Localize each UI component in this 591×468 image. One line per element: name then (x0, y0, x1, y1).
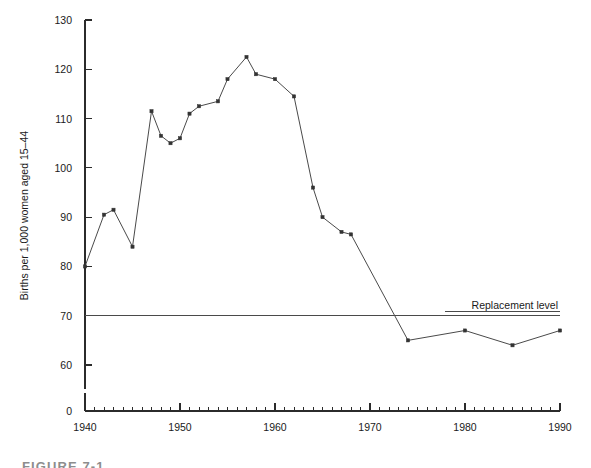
data-point-marker (83, 265, 86, 268)
data-point-marker (226, 78, 229, 81)
y-axis-tick-label: 80 (60, 260, 72, 272)
data-point-marker (406, 339, 409, 342)
x-axis-tick-label: 1980 (453, 421, 477, 433)
x-axis-tick-label: 1970 (358, 421, 382, 433)
x-axis-tick-label: 1960 (263, 421, 287, 433)
fertility-rate-line-chart: 0607080901001101201301940195019601970198… (0, 0, 591, 468)
figure-container: 0607080901001101201301940195019601970198… (0, 0, 591, 468)
y-axis-tick-label: 120 (54, 63, 72, 75)
data-point-marker (178, 137, 181, 140)
data-point-marker (150, 110, 153, 113)
data-point-marker (159, 134, 162, 137)
data-point-marker (558, 329, 561, 332)
x-axis-tick-label: 1990 (548, 421, 572, 433)
data-point-marker (112, 208, 115, 211)
y-axis-tick-label: 60 (60, 359, 72, 371)
replacement-level-label: Replacement level (472, 299, 558, 311)
figure-caption: FIGURE 7-1 (22, 452, 105, 468)
data-point-marker (463, 329, 466, 332)
y-axis-tick-label: 70 (60, 310, 72, 322)
y-axis-tick-label: 110 (55, 113, 72, 125)
data-point-marker (245, 55, 248, 58)
data-point-marker (197, 105, 200, 108)
data-point-marker (511, 344, 514, 347)
data-point-marker (188, 112, 191, 115)
data-point-marker (131, 245, 134, 248)
data-point-marker (292, 95, 295, 98)
x-axis-tick-label: 1940 (73, 421, 97, 433)
data-point-marker (311, 186, 314, 189)
data-point-marker (102, 213, 105, 216)
data-point-marker (321, 216, 324, 219)
data-point-marker (273, 78, 276, 81)
x-axis-tick-label: 1950 (168, 421, 192, 433)
y-axis-tick-label: 0 (66, 405, 72, 417)
y-axis-tick-label: 130 (54, 14, 72, 26)
data-point-marker (254, 73, 257, 76)
y-axis-tick-label: 100 (54, 162, 72, 174)
data-point-marker (349, 233, 352, 236)
y-axis-tick-label: 90 (60, 211, 72, 223)
data-point-marker (169, 142, 172, 145)
y-axis-title: Births per 1,000 women aged 15–44 (18, 131, 30, 300)
data-point-marker (340, 230, 343, 233)
data-point-marker (216, 100, 219, 103)
